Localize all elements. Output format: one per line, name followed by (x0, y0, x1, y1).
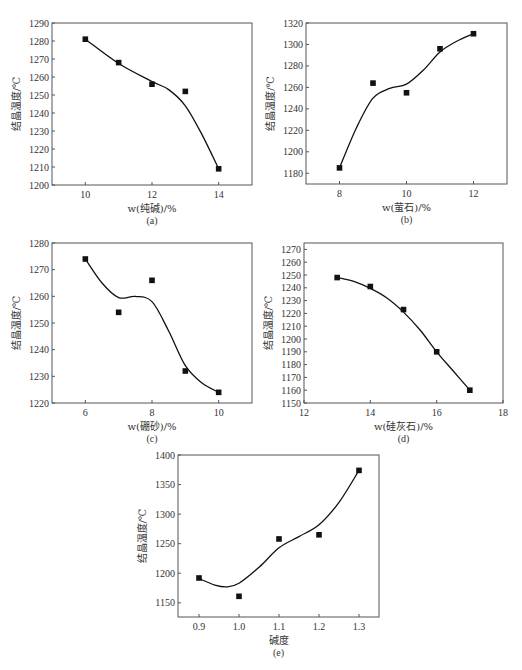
y-tick-label: 1220 (281, 308, 301, 319)
panel-label: (d) (398, 433, 410, 445)
x-axis-label: w(萤石)/% (382, 202, 431, 213)
y-tick-label: 1210 (29, 162, 49, 173)
x-tick-label: 10 (214, 407, 224, 418)
chart-panel-e: 1150120012501300135014000.91.01.11.21.3碱… (136, 450, 379, 660)
x-tick-label: 1.2 (313, 621, 326, 632)
y-axis: 115012001250130013501400 (155, 450, 181, 609)
y-axis-label: 结晶温度/℃ (10, 296, 22, 351)
y-tick-label: 1270 (29, 264, 49, 275)
y-tick-label: 1400 (155, 450, 175, 461)
plot-frame (52, 243, 252, 403)
x-axis-label: 碱度 (269, 634, 289, 646)
data-point-marker (83, 36, 89, 42)
figure-canvas: 1200121012201230124012501260127012801290… (0, 0, 522, 670)
x-axis-label: w(纯碱)/% (127, 202, 176, 214)
y-tick-label: 1200 (281, 334, 301, 345)
x-tick-label: 1.1 (273, 621, 286, 632)
x-tick-label: 1.3 (353, 621, 366, 632)
x-tick-label: 1.0 (233, 621, 246, 632)
x-tick-label: 16 (432, 407, 442, 418)
x-tick-label: 12 (469, 188, 479, 199)
y-tick-label: 1250 (155, 538, 175, 549)
panel-label: (a) (146, 215, 157, 227)
x-axis-label: w(硅灰石)/% (374, 420, 433, 432)
data-point-marker (401, 307, 407, 313)
y-tick-label: 1280 (29, 238, 49, 249)
data-point-marker (183, 89, 189, 95)
y-tick-label: 1270 (281, 244, 301, 255)
y-axis: 11801200122012401260128013001320 (283, 18, 309, 179)
y-tick-label: 1180 (281, 359, 301, 370)
y-tick-label: 1240 (281, 282, 301, 293)
data-point-marker (216, 166, 222, 172)
y-tick-label: 1210 (281, 321, 301, 332)
x-tick-label: 18 (498, 407, 508, 418)
data-point-marker (236, 594, 242, 600)
y-axis-label: 结晶温度/℃ (10, 77, 22, 132)
y-axis-label: 结晶温度/℃ (136, 509, 148, 564)
plot-frame (304, 243, 503, 403)
x-tick-label: 10 (80, 189, 90, 200)
y-tick-label: 1190 (281, 346, 301, 357)
data-point-marker (356, 468, 362, 474)
y-tick-label: 1280 (29, 36, 49, 47)
chart-panel-c: 12201230124012501260127012806810w(硼砂)/%结… (10, 238, 252, 446)
chart-panel-d: 1150116011701180119012001210122012301240… (262, 243, 508, 445)
y-tick-label: 1200 (155, 568, 175, 579)
y-tick-label: 1230 (29, 371, 49, 382)
y-tick-label: 1240 (283, 103, 303, 114)
y-tick-label: 1250 (281, 270, 301, 281)
y-tick-label: 1150 (155, 597, 175, 608)
y-tick-label: 1240 (29, 108, 49, 119)
fit-curve (337, 278, 470, 391)
y-tick-label: 1350 (155, 479, 175, 490)
y-tick-label: 1260 (29, 72, 49, 83)
y-tick-label: 1180 (283, 168, 303, 179)
data-point-marker (434, 349, 440, 355)
x-tick-label: 8 (337, 188, 342, 199)
y-tick-label: 1220 (29, 144, 49, 155)
data-point-marker (437, 46, 443, 52)
data-point-marker (316, 532, 322, 538)
data-point-marker (149, 81, 155, 87)
x-tick-label: 8 (150, 407, 155, 418)
data-point-marker (276, 536, 282, 542)
data-point-marker (370, 80, 376, 86)
data-point-marker (216, 390, 222, 396)
y-tick-label: 1290 (29, 18, 49, 29)
data-point-marker (196, 575, 202, 581)
data-point-marker (467, 387, 473, 393)
panel-label: (e) (273, 647, 284, 659)
data-point-marker (116, 310, 122, 316)
y-tick-label: 1160 (281, 385, 301, 396)
chart-panel-a: 1200121012201230124012501260127012801290… (10, 18, 252, 228)
y-tick-label: 1240 (29, 344, 49, 355)
y-tick-label: 1260 (283, 82, 303, 93)
y-tick-label: 1220 (283, 125, 303, 136)
y-tick-label: 1270 (29, 54, 49, 65)
y-tick-label: 1300 (283, 39, 303, 50)
y-tick-label: 1230 (29, 126, 49, 137)
x-tick-label: 6 (83, 407, 88, 418)
x-axis-label: w(硼砂)/% (127, 420, 176, 432)
panel-label: (b) (401, 214, 413, 226)
x-tick-label: 12 (147, 189, 157, 200)
y-axis: 1150116011701180119012001210122012301240… (281, 244, 307, 409)
y-tick-label: 1200 (29, 180, 49, 191)
plot-frame (306, 23, 507, 184)
fit-curve (85, 39, 218, 169)
y-axis: 1200121012201230124012501260127012801290 (29, 18, 55, 191)
y-tick-label: 1260 (281, 257, 301, 268)
fit-curve (199, 470, 359, 587)
y-tick-label: 1230 (281, 295, 301, 306)
y-tick-label: 1250 (29, 318, 49, 329)
data-point-marker (337, 165, 343, 171)
y-tick-label: 1320 (283, 18, 303, 29)
x-tick-label: 12 (299, 407, 309, 418)
x-tick-label: 0.9 (193, 621, 206, 632)
y-axis: 1220123012401250126012701280 (29, 238, 55, 409)
plot-frame (52, 23, 252, 185)
y-axis-label: 结晶温度/℃ (262, 296, 274, 351)
data-point-marker (149, 278, 155, 284)
fit-curve (340, 34, 474, 168)
